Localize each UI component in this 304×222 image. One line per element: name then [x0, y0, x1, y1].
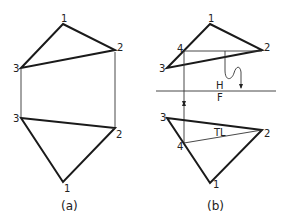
a-top-label-3: 3	[13, 63, 19, 74]
b-front-label-4: 4	[177, 141, 183, 152]
caption-b: (b)	[207, 199, 224, 213]
b-true-length-label: TL	[213, 127, 226, 138]
a-front-view	[21, 118, 115, 182]
a-top-view	[21, 24, 115, 68]
a-top-label-2: 2	[117, 42, 123, 53]
a-front-label-1: 1	[64, 183, 70, 194]
b-fold-label-h: H	[216, 80, 224, 91]
descriptive-geometry-figure: 1 2 3 3 2 1 (a) 1 2 3 4 H F 3 2 4 1 TL (…	[0, 0, 304, 222]
b-front-label-2: 2	[264, 128, 270, 139]
b-top-label-4: 4	[177, 43, 183, 54]
a-front-label-3: 3	[13, 113, 19, 124]
a-front-label-2: 2	[116, 129, 122, 140]
b-front-label-3: 3	[160, 112, 166, 123]
b-fold-label-f: F	[217, 92, 223, 103]
b-top-label-3: 3	[159, 63, 165, 74]
a-top-triangle	[21, 24, 115, 68]
a-front-triangle	[21, 118, 115, 182]
b-top-label-2: 2	[264, 42, 270, 53]
caption-a: (a)	[61, 199, 78, 213]
arrow-down-icon	[239, 84, 243, 89]
a-top-label-1: 1	[61, 13, 67, 24]
b-front-label-1: 1	[213, 179, 219, 190]
b-top-label-1: 1	[208, 13, 214, 24]
